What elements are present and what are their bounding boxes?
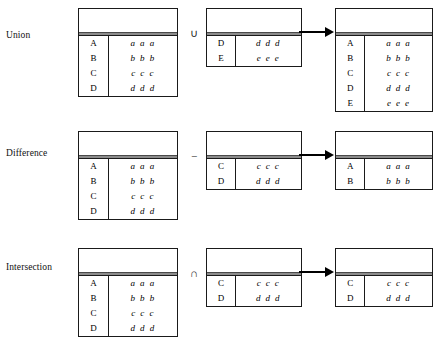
arrow-shaft <box>299 154 327 156</box>
row-value-cell: b b b <box>109 291 177 306</box>
row-key-cell: C <box>79 66 109 81</box>
left-operand-table: Aa a aBb b bCc c cDd d d <box>78 131 178 220</box>
row-key-cell: B <box>79 291 109 306</box>
table-body: Aa a aBb b bCc c cDd d dEe e e <box>336 36 432 111</box>
row-key-cell: B <box>336 51 365 66</box>
row-key-cell: A <box>336 159 365 174</box>
row-value-cell: a a a <box>365 36 432 51</box>
operation-row-difference: DifferenceAa a aBb b bCc c cDd d d−Cc c … <box>0 118 441 234</box>
table-body: Aa a aBb b bCc c cDd d d <box>79 276 177 336</box>
row-value-cell: d d d <box>235 174 301 189</box>
row-value-cell: b b b <box>109 51 177 66</box>
table-body: Aa a aBb b bCc c cDd d d <box>79 36 177 96</box>
table-header-band <box>79 249 177 273</box>
row-key-cell: C <box>207 159 235 174</box>
table-row: Bb b b <box>79 174 177 189</box>
row-key-cell: D <box>79 321 109 336</box>
row-value-cell: b b b <box>109 174 177 189</box>
row-value-cell: c c c <box>235 159 301 174</box>
table-row: Dd d d <box>79 81 177 96</box>
left-operand-table: Aa a aBb b bCc c cDd d d <box>78 248 178 337</box>
row-value-cell: c c c <box>235 276 301 291</box>
result-table: Cc c cDd d d <box>335 248 433 307</box>
row-value-cell: d d d <box>109 321 177 336</box>
table-body: Aa a aBb b b <box>336 159 432 189</box>
row-key-cell: D <box>336 291 365 306</box>
arrow-shaft <box>299 31 327 33</box>
row-value-cell: a a a <box>109 276 177 291</box>
table-body: Aa a aBb b bCc c cDd d d <box>79 159 177 219</box>
row-value-cell: a a a <box>109 159 177 174</box>
row-key-cell: C <box>79 306 109 321</box>
set-operations-diagram: UnionAa a aBb b bCc c cDd d d∪Dd d dEe e… <box>0 0 441 348</box>
row-key-cell: E <box>336 96 365 111</box>
row-key-cell: B <box>79 51 109 66</box>
row-value-cell: d d d <box>365 81 432 96</box>
row-value-cell: c c c <box>109 66 177 81</box>
table-row: Cc c c <box>207 276 301 291</box>
row-key-cell: A <box>79 159 109 174</box>
row-key-cell: A <box>79 36 109 51</box>
right-operand-table: Cc c cDd d d <box>206 248 302 307</box>
row-value-cell: d d d <box>365 291 432 306</box>
row-key-cell: A <box>79 276 109 291</box>
table-body: Cc c cDd d d <box>336 276 432 306</box>
table-row: Aa a a <box>79 159 177 174</box>
row-key-cell: C <box>79 189 109 204</box>
table-row: Dd d d <box>207 36 301 51</box>
table-row: Cc c c <box>79 189 177 204</box>
arrow-head-icon <box>325 27 334 37</box>
table-body: Cc c cDd d d <box>207 276 301 306</box>
operation-row-union: UnionAa a aBb b bCc c cDd d d∪Dd d dEe e… <box>0 0 441 118</box>
row-key-cell: D <box>207 174 235 189</box>
result-table: Aa a aBb b bCc c cDd d dEe e e <box>335 8 433 112</box>
table-row: Dd d d <box>336 291 432 306</box>
row-key-cell: D <box>79 81 109 96</box>
table-header-band <box>336 9 432 33</box>
table-row: Dd d d <box>207 174 301 189</box>
row-key-cell: C <box>336 66 365 81</box>
table-header-band <box>79 9 177 33</box>
row-key-cell: E <box>207 51 235 66</box>
table-row: Bb b b <box>336 51 432 66</box>
table-header-band <box>336 132 432 156</box>
table-row: Cc c c <box>79 306 177 321</box>
table-row: Aa a a <box>79 36 177 51</box>
arrow-head-icon <box>325 150 334 160</box>
row-key-cell: B <box>79 174 109 189</box>
table-header-band <box>207 132 301 156</box>
result-arrow <box>299 267 337 277</box>
right-operand-table: Cc c cDd d d <box>206 131 302 190</box>
row-key-cell: D <box>207 36 235 51</box>
table-row: Dd d d <box>207 291 301 306</box>
row-key-cell: C <box>336 276 365 291</box>
row-value-cell: b b b <box>365 51 432 66</box>
table-header-band <box>207 9 301 33</box>
row-value-cell: d d d <box>235 36 301 51</box>
row-key-cell: C <box>207 276 235 291</box>
result-table: Aa a aBb b b <box>335 131 433 190</box>
table-row: Cc c c <box>79 66 177 81</box>
row-key-cell: D <box>207 291 235 306</box>
table-row: Bb b b <box>336 174 432 189</box>
arrow-shaft <box>299 271 327 273</box>
table-row: Cc c c <box>336 66 432 81</box>
table-header-band <box>207 249 301 273</box>
table-row: Bb b b <box>79 291 177 306</box>
table-body: Dd d dEe e e <box>207 36 301 66</box>
row-key-cell: A <box>336 36 365 51</box>
row-value-cell: c c c <box>365 276 432 291</box>
row-value-cell: d d d <box>235 291 301 306</box>
operation-label: Union <box>6 30 30 40</box>
table-body: Cc c cDd d d <box>207 159 301 189</box>
row-value-cell: e e e <box>365 96 432 111</box>
table-header-band <box>336 249 432 273</box>
row-value-cell: c c c <box>365 66 432 81</box>
table-row: Ee e e <box>207 51 301 66</box>
table-header-band <box>79 132 177 156</box>
result-arrow <box>299 27 337 37</box>
row-value-cell: b b b <box>365 174 432 189</box>
operation-row-intersection: IntersectionAa a aBb b bCc c cDd d d∩Cc … <box>0 234 441 348</box>
table-row: Cc c c <box>336 276 432 291</box>
row-value-cell: a a a <box>109 36 177 51</box>
